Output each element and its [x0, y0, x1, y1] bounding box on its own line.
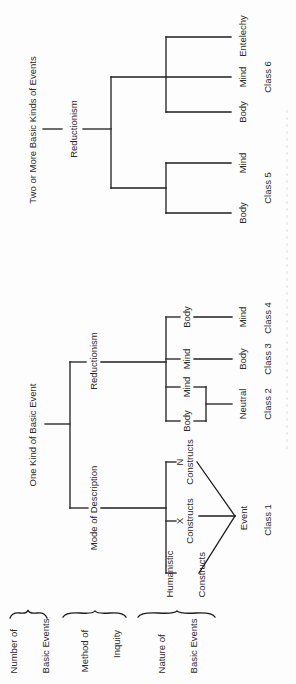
label-humanistic-constructs: Humanistic Constructs: [144, 551, 228, 598]
brace-nature-of-basic-events: [138, 611, 215, 617]
label-class2-body: Body: [182, 410, 192, 432]
label-two-or-more-basic-kinds: Two or More Basic Kinds of Events: [28, 56, 38, 203]
label-class6-entelechy: Entelechy: [238, 15, 248, 57]
label-class3-body: Body: [238, 348, 248, 370]
label-class-2: Class 2: [263, 388, 273, 420]
label-neutral: Neutral: [238, 389, 248, 420]
label-class3-mind: Mind: [182, 349, 192, 370]
label-class4-mind: Mind: [238, 307, 248, 328]
label-class4-body: Body: [182, 306, 192, 328]
label-reductionism-two-kinds: Reductionism: [69, 100, 79, 158]
label-class-6: Class 6: [263, 61, 273, 93]
label-class-4: Class 4: [263, 302, 273, 334]
label-class-3: Class 3: [263, 343, 273, 375]
brace-number-of-basic-events: [10, 610, 47, 618]
label-one-kind-of-basic-event: One Kind of Basic Event: [28, 384, 38, 487]
label-class5-body: Body: [238, 202, 248, 224]
row-label-nature-of-basic-events: Nature of Basic Events: [136, 619, 220, 674]
row-label-method-of-inquiry: Method of Inquity: [59, 630, 143, 672]
faint-caption: [286, 110, 288, 450]
label-class6-body: Body: [238, 101, 248, 123]
label-class2-mind: Mind: [182, 377, 192, 398]
brace-method-of-inquiry: [63, 611, 126, 617]
label-n-constructs: Constructs: [185, 439, 195, 484]
label-class-1: Class 1: [263, 504, 273, 536]
label-reductionism-one-kind: Reductionism: [89, 332, 99, 390]
label-event: Event: [239, 506, 249, 530]
label-class-5: Class 5: [263, 172, 273, 204]
diagram-canvas: Number of Basic Events Method of Inquity…: [0, 0, 296, 684]
label-class6-mind: Mind: [238, 67, 248, 88]
label-mode-of-description: Mode of Description: [89, 466, 99, 550]
label-x-constructs: Constructs: [185, 498, 195, 543]
label-class5-mind: Mind: [238, 153, 248, 174]
n-constructs-to-event: [197, 462, 235, 516]
